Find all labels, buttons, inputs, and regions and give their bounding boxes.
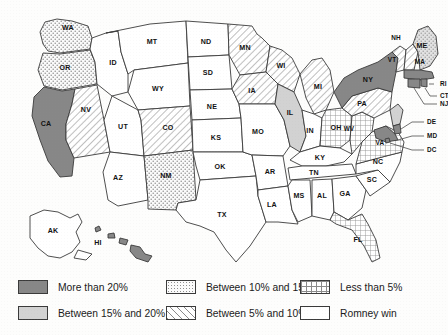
svg-text:NM: NM [160, 172, 171, 180]
svg-text:AK: AK [48, 227, 59, 235]
svg-text:DE: DE [427, 118, 437, 125]
svg-text:VA: VA [376, 139, 385, 146]
legend-swatch-none [300, 306, 330, 320]
svg-text:NV: NV [81, 106, 91, 114]
svg-text:ME: ME [416, 42, 427, 50]
svg-text:SC: SC [367, 176, 377, 184]
state-NJ [390, 104, 403, 126]
svg-text:NY: NY [363, 76, 373, 84]
svg-text:ID: ID [109, 59, 117, 67]
svg-text:GA: GA [339, 190, 350, 198]
legend-item-1: Between 15% and 20% [18, 306, 165, 320]
svg-text:CT: CT [440, 92, 448, 99]
svg-text:MD: MD [427, 132, 438, 139]
svg-text:IA: IA [248, 87, 256, 95]
state-HI [95, 226, 152, 262]
svg-text:IN: IN [306, 127, 314, 135]
svg-text:ND: ND [201, 38, 212, 46]
legend-label-2: Between 10% and 15% [206, 282, 313, 293]
callout-labels: RI CT NJ DE MD DC [427, 80, 448, 153]
svg-text:AZ: AZ [113, 174, 123, 182]
state-RI [421, 79, 427, 87]
legend-swatch-solid-dark [18, 280, 48, 294]
state-DC [385, 138, 390, 143]
state-DE [393, 124, 401, 134]
svg-text:VT: VT [388, 56, 397, 63]
svg-text:LA: LA [267, 201, 277, 209]
svg-text:SD: SD [203, 69, 213, 77]
svg-text:HI: HI [94, 239, 102, 247]
svg-text:NE: NE [207, 103, 217, 111]
svg-text:MI: MI [314, 83, 322, 91]
legend-label-5: Romney win [340, 308, 397, 319]
map-legend: More than 20% Between 15% and 20% Betwee… [0, 276, 448, 335]
svg-text:NH: NH [391, 34, 401, 41]
svg-text:KS: KS [211, 134, 221, 142]
legend-label-0: More than 20% [58, 282, 128, 293]
legend-swatch-grid [300, 280, 330, 294]
svg-text:IL: IL [287, 109, 294, 117]
svg-text:CO: CO [162, 124, 173, 132]
svg-text:PA: PA [357, 100, 367, 108]
legend-swatch-dots [166, 280, 196, 294]
state-AK [30, 210, 92, 260]
legend-item-4: Less than 5% [300, 280, 402, 294]
legend-item-3: Between 5% and 10% [166, 306, 307, 320]
svg-text:WA: WA [62, 24, 74, 32]
svg-text:OH: OH [330, 124, 341, 132]
svg-text:MS: MS [293, 192, 304, 200]
svg-text:OK: OK [214, 163, 226, 171]
legend-label-4: Less than 5% [340, 282, 402, 293]
svg-text:WV: WV [344, 125, 355, 132]
svg-text:MN: MN [239, 44, 250, 52]
svg-text:TX: TX [217, 211, 227, 219]
legend-label-1: Between 15% and 20% [58, 308, 165, 319]
svg-text:OR: OR [59, 64, 70, 72]
svg-text:CA: CA [41, 120, 52, 128]
legend-swatch-solid-light [18, 306, 48, 320]
legend-label-3: Between 5% and 10% [206, 308, 307, 319]
svg-text:RI: RI [440, 80, 447, 87]
svg-text:AR: AR [265, 168, 276, 176]
svg-text:NJ: NJ [440, 100, 448, 107]
svg-text:TN: TN [309, 169, 319, 177]
state-AZ [103, 152, 148, 206]
svg-text:MT: MT [147, 38, 158, 46]
svg-text:UT: UT [118, 123, 128, 131]
us-map-svg: WA OR CA NV ID MT WY UT AZ CO NM ND SD N… [0, 0, 448, 276]
svg-text:NC: NC [373, 158, 384, 166]
legend-item-5: Romney win [300, 306, 397, 320]
state-MA [404, 70, 434, 80]
svg-text:AL: AL [317, 192, 327, 200]
state-CT [408, 79, 420, 88]
legend-item-2: Between 10% and 15% [166, 280, 313, 294]
svg-text:WI: WI [276, 62, 285, 70]
svg-text:MA: MA [415, 58, 426, 65]
svg-text:FL: FL [353, 236, 363, 244]
svg-text:KY: KY [315, 154, 325, 162]
svg-text:DC: DC [427, 146, 437, 153]
svg-text:WY: WY [152, 85, 164, 93]
svg-text:MO: MO [252, 128, 264, 136]
legend-swatch-diagonal [166, 306, 196, 320]
legend-item-0: More than 20% [18, 280, 128, 294]
